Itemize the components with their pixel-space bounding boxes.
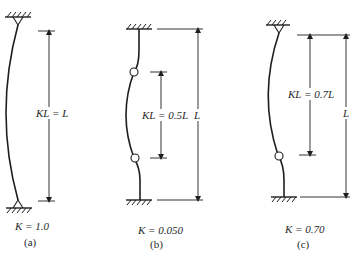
inflection-point-icon bbox=[130, 68, 138, 76]
column-a bbox=[6, 25, 18, 200]
caption-a: (a) bbox=[24, 236, 36, 248]
top-pinned-support-icon bbox=[5, 12, 31, 25]
effective-length-label-a: KL = L bbox=[35, 107, 69, 119]
effective-length-label-c: KL = 0.7L bbox=[287, 88, 335, 100]
effective-length-label-b: KL = 0.5L bbox=[141, 109, 189, 121]
effective-length-diagram bbox=[0, 0, 352, 257]
panel-c bbox=[266, 20, 350, 202]
length-label-c: L bbox=[342, 107, 350, 119]
caption-b: (b) bbox=[150, 238, 163, 250]
k-value-label-b: K = 0.050 bbox=[138, 224, 183, 236]
k-value-label-c: K = 0.70 bbox=[285, 223, 325, 235]
bottom-fixed-support-icon bbox=[271, 197, 297, 202]
top-pinned-support-icon bbox=[266, 20, 290, 33]
bottom-pinned-support-icon bbox=[6, 200, 32, 213]
length-label-b: L bbox=[193, 109, 201, 121]
bottom-fixed-support-icon bbox=[126, 200, 152, 205]
inflection-point-icon bbox=[275, 152, 283, 160]
inflection-point-icon bbox=[131, 154, 139, 162]
k-value-label-a: K = 1.0 bbox=[15, 220, 49, 232]
top-fixed-support-icon bbox=[126, 24, 152, 29]
column-c bbox=[268, 33, 284, 197]
caption-c: (c) bbox=[297, 238, 309, 250]
column-b bbox=[126, 29, 140, 200]
